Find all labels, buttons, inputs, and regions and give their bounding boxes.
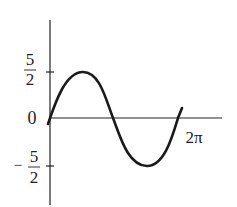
y-label-pos-den: 2: [26, 70, 35, 89]
sine-curve: [48, 72, 182, 166]
y-label-pos-num: 5: [26, 50, 35, 69]
y-label-neg-num: 5: [30, 147, 39, 166]
y-label-zero: 0: [28, 108, 37, 128]
sine-chart: 5 2 0 − 5 2 2π: [0, 0, 237, 207]
y-label-neg-sign: −: [14, 157, 22, 173]
y-label-neg-den: 2: [30, 168, 39, 187]
x-label-two-pi: 2π: [185, 128, 203, 147]
